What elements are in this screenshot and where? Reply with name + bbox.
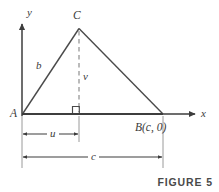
vertex-label-a: A: [10, 108, 17, 120]
y-axis-label: y: [27, 7, 32, 18]
altitude-label-v: v: [83, 71, 88, 82]
x-axis-label: x: [201, 108, 206, 119]
side-label-b: b: [36, 60, 42, 71]
triangle-side-ac: [23, 29, 80, 115]
vertex-label-b: B(c, 0): [135, 122, 166, 134]
right-angle-marker: [73, 107, 80, 114]
triangle-side-cb: [79, 29, 163, 115]
figure-caption: FIGURE 5: [157, 177, 213, 188]
vertex-label-c: C: [73, 10, 81, 22]
dimension-label-u: u: [47, 128, 59, 139]
triangle-diagram: [0, 0, 219, 192]
figure-container: y x A C B(c, 0) b v u c FIGURE 5: [0, 0, 219, 192]
dimension-label-c: c: [88, 151, 99, 162]
